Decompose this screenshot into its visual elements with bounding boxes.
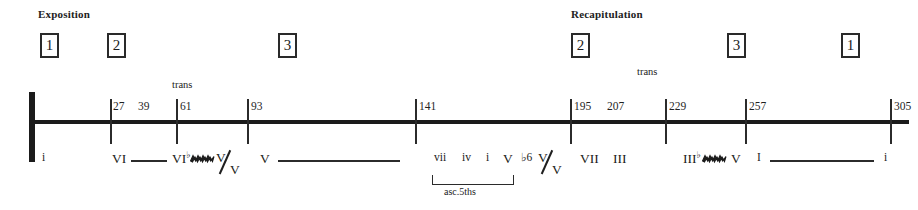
form-diagram-canvas: ExpositionRecapitulation 123231 transtra… bbox=[0, 0, 918, 210]
harmony-roman-numeral: VII bbox=[580, 151, 599, 166]
harmony-roman-numeral: i bbox=[884, 151, 887, 163]
theme-box: 1 bbox=[841, 33, 860, 58]
measure-number: 27 bbox=[113, 100, 125, 112]
harmony-label: VII bbox=[580, 152, 599, 166]
harmony-label: VI♭ bbox=[172, 152, 191, 166]
harmony-label: i bbox=[42, 152, 45, 164]
harmony-label: VI bbox=[112, 152, 126, 166]
theme-box: 1 bbox=[40, 33, 59, 58]
harmony-label: III♭ bbox=[683, 152, 701, 166]
ascending-fifths-bracket bbox=[432, 175, 514, 185]
measure-number: 207 bbox=[607, 100, 624, 112]
timeline-axis bbox=[33, 120, 909, 124]
harmony-label: III bbox=[613, 152, 627, 166]
harmony-roman-numeral: i bbox=[486, 151, 489, 163]
prolongation-line bbox=[770, 160, 874, 162]
ascending-fifths-label: asc.5ths bbox=[444, 186, 476, 197]
harmony-label: ♭6 bbox=[521, 152, 532, 164]
harmony-label: i bbox=[884, 152, 887, 164]
harmony-label: V bbox=[260, 152, 270, 166]
timeline-start-barline bbox=[29, 92, 35, 162]
timeline-tick bbox=[570, 99, 572, 144]
harmony-roman-numeral: III bbox=[683, 151, 697, 166]
harmony-roman-numeral: vii bbox=[434, 151, 446, 163]
fraction-denominator: V bbox=[552, 162, 562, 178]
timeline-tick bbox=[415, 99, 417, 144]
measure-number: 257 bbox=[749, 100, 766, 112]
timeline-tick bbox=[665, 99, 667, 144]
modulation-zigzag-icon bbox=[702, 151, 727, 163]
harmony-roman-numeral: V bbox=[260, 151, 270, 166]
prolongation-line bbox=[278, 160, 400, 162]
applied-dominant-fraction: VV bbox=[538, 150, 568, 178]
harmony-roman-numeral: V bbox=[731, 151, 741, 166]
harmony-label: iv bbox=[462, 152, 471, 164]
section-heading: Exposition bbox=[38, 8, 90, 20]
theme-box: 3 bbox=[727, 33, 746, 58]
theme-box: 2 bbox=[107, 33, 126, 58]
measure-number: 229 bbox=[669, 100, 686, 112]
harmony-roman-numeral: VI bbox=[172, 151, 186, 166]
harmony-roman-numeral: I bbox=[757, 151, 761, 163]
accidental-flat-icon: ♭ bbox=[697, 150, 701, 160]
harmony-roman-numeral: i bbox=[42, 151, 45, 163]
timeline-tick bbox=[890, 99, 892, 144]
harmony-label: vii bbox=[434, 152, 446, 164]
theme-box: 2 bbox=[571, 33, 590, 58]
measure-number: 61 bbox=[180, 100, 192, 112]
measure-number: 39 bbox=[138, 100, 150, 112]
harmony-label: i bbox=[486, 152, 489, 164]
timeline-tick bbox=[176, 99, 178, 144]
timeline-tick bbox=[745, 99, 747, 144]
theme-box: 3 bbox=[278, 33, 297, 58]
harmony-label: V bbox=[731, 152, 741, 166]
section-heading: Recapitulation bbox=[571, 8, 643, 20]
timeline-tick bbox=[110, 99, 112, 144]
harmony-roman-numeral: ♭6 bbox=[521, 151, 532, 163]
harmony-roman-numeral: VI bbox=[112, 151, 126, 166]
measure-number: 305 bbox=[894, 100, 911, 112]
fraction-denominator: V bbox=[230, 162, 240, 178]
measure-number: 141 bbox=[419, 100, 436, 112]
harmony-label: I bbox=[757, 152, 761, 164]
applied-dominant-fraction: VV bbox=[216, 150, 246, 178]
transition-label: trans bbox=[172, 79, 192, 90]
harmony-label: V bbox=[503, 152, 513, 166]
harmony-roman-numeral: iv bbox=[462, 151, 471, 163]
measure-number: 93 bbox=[251, 100, 263, 112]
harmony-roman-numeral: V bbox=[503, 151, 513, 166]
transition-label: trans bbox=[637, 66, 657, 77]
modulation-zigzag-icon bbox=[190, 151, 215, 163]
harmony-roman-numeral: III bbox=[613, 151, 627, 166]
measure-number: 195 bbox=[574, 100, 591, 112]
prolongation-line bbox=[131, 160, 167, 162]
timeline-tick bbox=[247, 99, 249, 144]
